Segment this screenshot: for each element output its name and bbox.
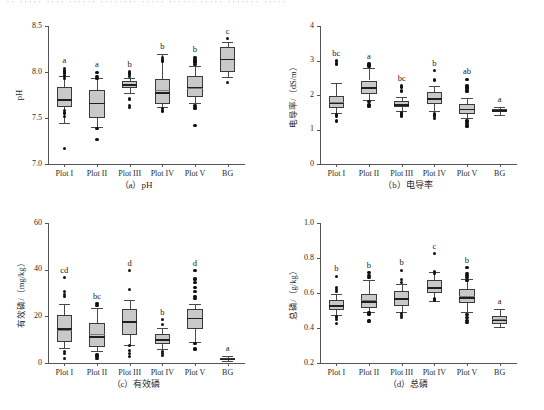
significance-letter: b <box>113 59 146 69</box>
outlier-point <box>335 59 338 62</box>
y-tick-mark <box>317 164 320 165</box>
cap-lower <box>59 348 70 349</box>
y-tick-label: 1.0 <box>290 218 314 227</box>
outlier-point <box>367 62 370 65</box>
median-line <box>155 92 170 94</box>
y-tick-mark <box>317 293 320 294</box>
x-tick-label-plot-i: Plot I <box>320 169 353 178</box>
median-line <box>361 87 376 89</box>
x-tick-mark <box>500 164 501 167</box>
x-tick-label-plot-v: Plot V <box>179 169 212 178</box>
box <box>187 309 202 329</box>
median-line <box>220 59 235 61</box>
median-line <box>492 320 507 322</box>
cap-lower <box>222 361 233 362</box>
outlier-point <box>335 322 338 325</box>
outlier-point <box>367 274 370 277</box>
cap-upper <box>157 54 168 55</box>
x-tick-label-plot-v: Plot V <box>451 169 484 178</box>
boxplot-a: pH7.07.58.08.5Plot IaPlot IIaPlot IIIbPl… <box>0 12 272 208</box>
cap-lower <box>124 93 135 94</box>
y-tick-mark <box>317 95 320 96</box>
outlier-point <box>193 104 196 107</box>
y-tick-mark <box>45 164 48 165</box>
x-tick-label-plot-iii: Plot III <box>113 368 146 377</box>
cut-off-text: ·· ····· ···· ······ ········ ····· ····… <box>6 0 287 7</box>
x-tick-label-plot-iv: Plot IV <box>418 169 451 178</box>
outlier-point <box>95 127 98 130</box>
panel-c: 有效磷/（mg/kg）0204060Plot IcdPlot IIbcPlot … <box>0 205 272 410</box>
y-tick-label: 1 <box>290 124 314 133</box>
y-tick-label: 60 <box>18 218 42 227</box>
significance-letter: a <box>483 296 516 306</box>
x-tick-mark <box>467 164 468 167</box>
x-tick-mark <box>228 164 229 167</box>
y-tick-label: 7.0 <box>18 159 42 168</box>
x-tick-label-plot-ii: Plot II <box>353 169 386 178</box>
median-line <box>89 336 104 338</box>
median-line <box>394 298 409 300</box>
median-line <box>57 328 72 330</box>
y-tick-mark <box>317 61 320 62</box>
whisker-lower <box>467 303 468 313</box>
outlier-point <box>193 295 196 298</box>
outlier-point <box>63 357 66 360</box>
outlier-point <box>367 311 370 314</box>
x-tick-label-plot-iv: Plot IV <box>418 368 451 377</box>
y-tick-label: 0.8 <box>290 253 314 262</box>
x-tick-mark <box>434 164 435 167</box>
median-line <box>89 103 104 105</box>
outlier-point <box>465 272 468 275</box>
y-tick-mark <box>317 130 320 131</box>
outlier-point <box>465 266 468 269</box>
box <box>57 87 72 107</box>
figure-panel-grid: pH7.07.58.08.5Plot IaPlot IIaPlot IIIbPl… <box>0 12 544 410</box>
y-tick-mark <box>317 223 320 224</box>
x-tick-mark <box>64 363 65 366</box>
y-tick-mark <box>45 223 48 224</box>
whisker-upper <box>369 68 370 80</box>
outlier-point <box>400 111 403 114</box>
x-tick-label-plot-iii: Plot III <box>113 169 146 178</box>
boxplot-d: 总磷/（g/kg）0.20.40.60.81.0Plot IbPlot IIbP… <box>272 205 544 407</box>
significance-letter: b <box>451 255 484 265</box>
cap-upper <box>124 300 135 301</box>
median-line <box>57 99 72 101</box>
whisker-upper <box>64 304 65 316</box>
cap-lower <box>494 327 505 328</box>
x-tick-label-bg: BG <box>483 169 516 178</box>
outlier-point <box>95 75 98 78</box>
cap-lower <box>494 115 505 116</box>
x-tick-mark <box>369 363 370 366</box>
outlier-point <box>193 277 196 280</box>
x-tick-mark <box>130 363 131 366</box>
x-tick-mark <box>64 164 65 167</box>
outlier-point <box>63 111 66 114</box>
outlier-point <box>465 119 468 122</box>
outlier-point <box>193 342 196 345</box>
cap-upper <box>222 42 233 43</box>
y-tick-mark <box>45 118 48 119</box>
y-tick-label: 0 <box>290 159 314 168</box>
x-tick-label-plot-i: Plot I <box>320 368 353 377</box>
median-line <box>492 110 507 112</box>
cap-upper <box>494 309 505 310</box>
mean-line <box>155 90 170 91</box>
x-tick-mark <box>336 164 337 167</box>
whisker-upper <box>500 309 501 316</box>
y-tick-label: 0.4 <box>290 323 314 332</box>
y-tick-mark <box>317 258 320 259</box>
y-tick-mark <box>317 328 320 329</box>
x-tick-mark <box>195 363 196 366</box>
x-tick-label-plot-iii: Plot III <box>385 169 418 178</box>
outlier-point <box>63 67 66 70</box>
y-tick-mark <box>317 26 320 27</box>
y-tick-label: 40 <box>18 264 42 273</box>
outlier-point <box>465 84 468 87</box>
x-tick-mark <box>228 363 229 366</box>
outlier-point <box>95 71 98 74</box>
x-tick-label-plot-i: Plot I <box>48 368 81 377</box>
x-tick-mark <box>336 363 337 366</box>
outlier-point <box>335 119 338 122</box>
x-tick-mark <box>130 164 131 167</box>
